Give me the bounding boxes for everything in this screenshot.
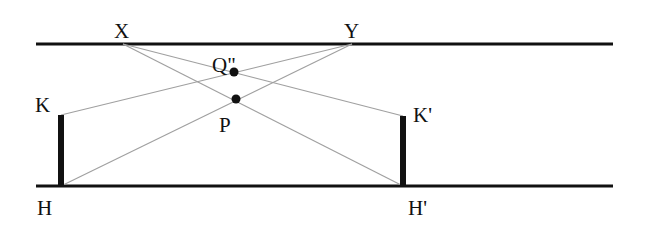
label-X: X	[114, 19, 129, 43]
label-Y: Y	[344, 19, 359, 43]
label-Kprime: K'	[413, 103, 432, 127]
label-Q: Q"	[212, 53, 236, 77]
label-Hprime: H'	[408, 196, 427, 220]
line-X-Kprime	[123, 44, 403, 116]
label-K: K	[35, 93, 50, 117]
label-H: H	[37, 196, 52, 220]
line-Y-K	[61, 44, 352, 115]
label-P: P	[219, 113, 231, 137]
point-P-dot	[232, 95, 241, 104]
geometry-diagram: X Y Q" P K K' H H'	[0, 0, 646, 225]
